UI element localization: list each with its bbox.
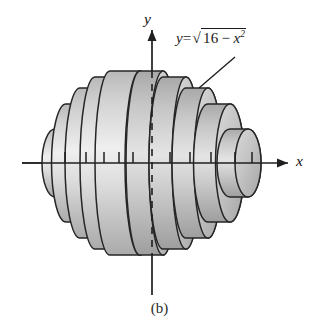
radicand-constant: 16 <box>203 30 218 46</box>
y-axis-label: y <box>144 10 151 28</box>
radicand: 16 − x2 <box>201 28 246 47</box>
solid-of-revolution-diagram <box>0 0 319 335</box>
radicand-minus: − <box>222 30 231 46</box>
equation-equals: = <box>183 30 192 46</box>
radical-sign: √16 − x2 <box>192 28 247 47</box>
radicand-exponent: 2 <box>240 29 245 39</box>
y-axis-arrowhead <box>148 30 157 41</box>
figure-caption: (b) <box>0 300 319 317</box>
x-axis-label: x <box>296 152 303 170</box>
curve-leader-line <box>199 57 235 88</box>
equation-lhs: y <box>176 30 183 46</box>
figure-container: y=√16 − x2 x y (b) <box>0 0 319 335</box>
x-axis-arrowhead <box>277 159 288 168</box>
curve-equation-label: y=√16 − x2 <box>176 28 246 47</box>
